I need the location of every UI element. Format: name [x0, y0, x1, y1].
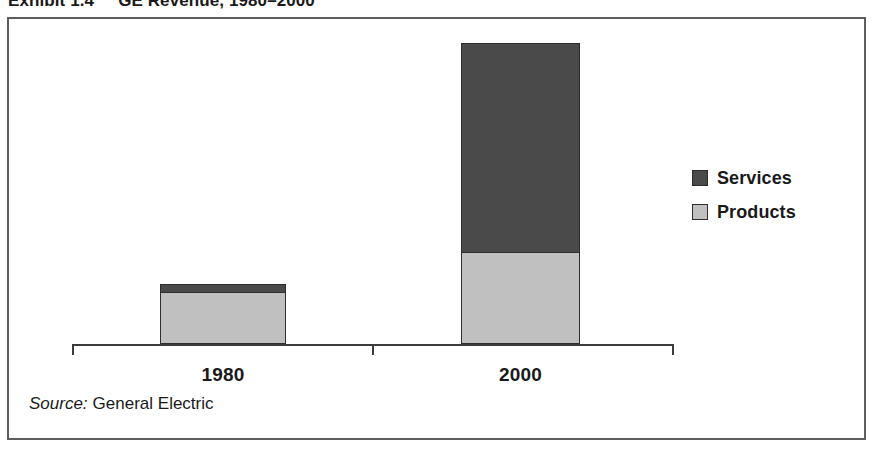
source-label: Source:	[29, 394, 88, 413]
legend-label-services: Services	[717, 168, 792, 189]
exhibit-figure: Exhibit 1.4GE Revenue, 1980–2000 1980 20…	[0, 0, 881, 453]
axis-tick-right	[672, 344, 674, 355]
legend-label-products: Products	[717, 202, 796, 223]
bar-2000[interactable]	[461, 43, 580, 344]
legend-item-products[interactable]: Products	[692, 198, 796, 226]
exhibit-title-text: GE Revenue, 1980–2000	[118, 0, 315, 10]
axis-tick-left	[72, 344, 74, 355]
exhibit-number: Exhibit 1.4	[8, 0, 94, 10]
legend-swatch-services-icon	[692, 170, 708, 186]
legend-swatch-products-icon	[692, 204, 708, 220]
category-label-1980: 1980	[160, 364, 286, 386]
bar-2000-segment-services[interactable]	[461, 43, 580, 252]
legend-item-services[interactable]: Services	[692, 164, 796, 192]
exhibit-title: Exhibit 1.4GE Revenue, 1980–2000	[8, 0, 315, 14]
plot-area: 1980 2000 Services Products Source:Gener…	[9, 19, 868, 442]
source-value: General Electric	[93, 394, 214, 413]
bar-1980-segment-services[interactable]	[160, 284, 286, 292]
bar-2000-segment-products[interactable]	[461, 252, 580, 344]
chart-legend: Services Products	[692, 164, 796, 232]
source-note: Source:General Electric	[29, 394, 214, 414]
chart-frame: 1980 2000 Services Products Source:Gener…	[7, 17, 866, 440]
axis-tick-middle	[372, 344, 374, 355]
bar-1980[interactable]	[160, 284, 286, 344]
bar-1980-segment-products[interactable]	[160, 292, 286, 344]
category-label-2000: 2000	[461, 364, 580, 386]
